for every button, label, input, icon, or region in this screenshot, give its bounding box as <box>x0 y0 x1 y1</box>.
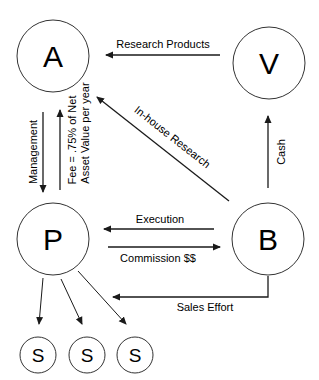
node-s3-label: S <box>129 345 142 366</box>
diagram-canvas: A V P B S S S Research Products Manageme… <box>0 0 319 380</box>
edge-commission: Commission $$ <box>108 247 220 264</box>
node-a-label: A <box>43 40 63 73</box>
node-v: V <box>233 27 305 99</box>
edge-cash-label: Cash <box>275 139 287 165</box>
node-s3: S <box>117 337 153 373</box>
edge-management: Management <box>27 112 43 192</box>
edge-management-label: Management <box>27 120 39 184</box>
arrow-down-icon <box>39 278 43 324</box>
node-s1: S <box>20 337 56 373</box>
node-b-label: B <box>258 223 278 256</box>
node-v-label: V <box>259 47 279 80</box>
node-b: B <box>232 203 304 275</box>
arrow-down-icon <box>61 279 82 324</box>
edge-in-house-research-label: In-house Research <box>132 103 212 170</box>
edge-fee: Fee = .75% of Net Asset Value per year <box>60 82 91 190</box>
node-s1-label: S <box>32 345 45 366</box>
edge-p-s1 <box>39 278 43 324</box>
edge-cash: Cash <box>268 116 287 188</box>
edge-research-products-label: Research Products <box>116 38 210 50</box>
edge-sales-effort-label: Sales Effort <box>177 301 234 313</box>
node-s2: S <box>69 337 105 373</box>
edge-execution: Execution <box>104 213 214 229</box>
edge-in-house-research: In-house Research <box>97 97 229 201</box>
edge-execution-label: Execution <box>136 213 184 225</box>
edge-fee-label-line2: Asset Value per year <box>79 82 91 184</box>
node-a: A <box>17 20 89 92</box>
edge-p-s2 <box>61 279 82 324</box>
node-p-label: P <box>43 223 63 256</box>
arrow-elbow-icon <box>113 276 268 297</box>
node-s2-label: S <box>81 345 94 366</box>
node-p: P <box>17 203 89 275</box>
edge-sales-effort: Sales Effort <box>113 276 268 313</box>
edge-fee-label-line1: Fee = .75% of Net <box>66 96 78 185</box>
edge-commission-label: Commission $$ <box>120 252 196 264</box>
edge-research-products: Research Products <box>106 38 220 55</box>
arrow-diagonal-icon <box>97 97 229 201</box>
